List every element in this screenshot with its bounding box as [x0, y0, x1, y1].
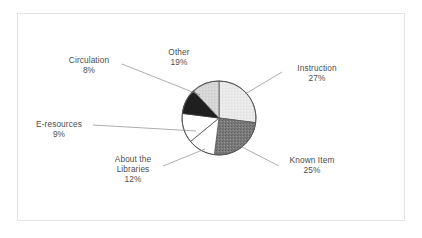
- pie-label-about-the-libraries: About the Libraries 12%: [104, 154, 162, 185]
- leader-line-instruction: [245, 72, 282, 94]
- pie-label-e-resources: E-resources 9%: [26, 119, 92, 139]
- pie-slice-known-item: [214, 118, 255, 155]
- pie-label-other-name: Other: [152, 47, 206, 57]
- pie-label-circulation: Circulation 8%: [58, 55, 120, 75]
- pie-label-circulation-name: Circulation: [58, 55, 120, 65]
- pie-label-about-the-libraries-percent: 12%: [104, 174, 162, 184]
- pie-label-e-resources-name: E-resources: [26, 119, 92, 129]
- pie-label-known-item-percent: 25%: [281, 165, 343, 175]
- pie-label-other: Other 19%: [152, 47, 206, 67]
- pie-label-circulation-percent: 8%: [58, 65, 120, 75]
- pie-label-known-item: Known Item 25%: [281, 155, 343, 175]
- pie-label-about-the-libraries-name-line1: About the: [104, 154, 162, 164]
- pie-label-other-percent: 19%: [152, 57, 206, 67]
- pie-label-instruction-percent: 27%: [285, 73, 349, 83]
- pie-slice-instruction: [219, 81, 256, 123]
- leader-line-about-the-libraries: [163, 149, 205, 166]
- pie-label-e-resources-percent: 9%: [26, 129, 92, 139]
- leader-line-circulation: [122, 64, 200, 95]
- leader-line-e-resources: [93, 125, 196, 131]
- pie-label-instruction-name: Instruction: [285, 63, 349, 73]
- leader-line-known-item: [240, 146, 279, 166]
- pie-label-about-the-libraries-name-line2: Libraries: [104, 164, 162, 174]
- pie-chart-figure: Other 19% Circulation 8% Instruction 27%…: [0, 0, 422, 238]
- pie-label-known-item-name: Known Item: [281, 155, 343, 165]
- pie-label-instruction: Instruction 27%: [285, 63, 349, 83]
